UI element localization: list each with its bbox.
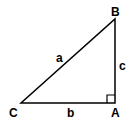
side-label-a: a (56, 51, 63, 65)
vertex-label-c: C (9, 106, 18, 120)
triangle-shape (21, 19, 115, 103)
right-angle-marker (107, 95, 115, 103)
side-label-b: b (67, 106, 74, 120)
right-triangle-diagram: B C A a b c (0, 0, 131, 123)
side-label-c: c (119, 59, 126, 73)
vertex-label-a: A (111, 106, 120, 120)
vertex-label-b: B (111, 5, 120, 19)
